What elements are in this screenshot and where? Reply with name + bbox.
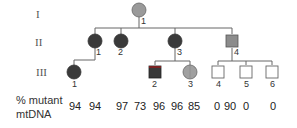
individual-III4: 4 — [212, 66, 224, 89]
male-affected-top-accent — [149, 66, 161, 68]
mtdna-value: 90 — [224, 100, 236, 112]
mtdna-value: 0 — [243, 100, 249, 112]
mtdna-value: 94 — [69, 100, 81, 112]
individual-II4: 4 — [226, 35, 239, 57]
generation-label-III: III — [36, 66, 47, 78]
male-partial-symbol — [226, 35, 238, 47]
mtdna-row-label-line2: mtDNA — [16, 108, 52, 120]
individual-III2: 2 — [149, 66, 161, 89]
individual-number: 2 — [152, 79, 157, 89]
individual-III1: 1 — [67, 65, 81, 89]
male-unaffected-symbol — [212, 66, 224, 78]
individual-III5: 5 — [240, 66, 252, 89]
male-unaffected-symbol — [266, 66, 278, 78]
mtdna-value: 0 — [214, 100, 220, 112]
individual-number: 1 — [72, 79, 77, 89]
individual-III6: 6 — [266, 66, 278, 89]
female-affected-symbol — [67, 65, 81, 79]
mtdna-value: 97 — [116, 100, 128, 112]
individual-number: 1 — [96, 47, 101, 57]
generation-label-II: II — [35, 36, 43, 48]
female-affected-symbol — [88, 34, 102, 48]
mtdna-value: 85 — [188, 100, 200, 112]
individual-number: 2 — [118, 47, 123, 57]
individual-III3: 3 — [183, 65, 197, 89]
pedigree-diagram: I II III 1 1 2 — [0, 0, 297, 128]
individual-number: 6 — [270, 79, 275, 89]
individual-number: 4 — [216, 79, 221, 89]
individual-number: 3 — [177, 47, 182, 57]
individual-number: 4 — [234, 47, 239, 57]
mtdna-value: 96 — [153, 100, 165, 112]
female-affected-symbol — [168, 34, 182, 48]
mtdna-value: 0 — [270, 100, 276, 112]
female-partial-symbol — [132, 3, 146, 17]
individual-II2: 2 — [114, 34, 128, 57]
mtdna-value: 96 — [171, 100, 183, 112]
male-unaffected-symbol — [240, 66, 252, 78]
mtdna-row: % mutant mtDNA 94 94 97 73 96 96 85 0 90… — [16, 94, 276, 120]
mtdna-value: 73 — [134, 100, 146, 112]
individual-number: 5 — [244, 79, 249, 89]
female-affected-symbol — [114, 34, 128, 48]
individual-number: 3 — [188, 79, 193, 89]
generation-label-I: I — [36, 8, 40, 20]
mtdna-value: 94 — [89, 100, 101, 112]
mtdna-row-label-line1: % mutant — [16, 94, 62, 106]
individual-number: 1 — [141, 16, 146, 26]
